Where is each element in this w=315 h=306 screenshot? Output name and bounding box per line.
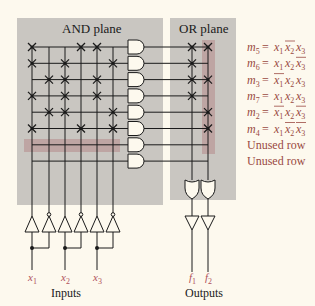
input-label-x2: x2 — [60, 271, 70, 286]
input-inverter — [42, 216, 56, 232]
and-gate — [128, 138, 144, 152]
output-buffer — [185, 216, 199, 230]
output-label-f1: f1 — [189, 271, 196, 286]
input-buffer — [58, 216, 72, 232]
minterm-equation: m3=x1x2x3 — [247, 73, 305, 89]
minterm-literal: x1 — [273, 122, 283, 138]
output-label-f2: f2 — [205, 271, 212, 286]
minterm-equation: m7=x1x2x3 — [247, 89, 305, 105]
junction-dot — [95, 246, 99, 250]
minterm-equation: m5=x1x2x3 — [247, 40, 305, 56]
input-branch — [97, 232, 113, 248]
minterm-literal: x2 — [284, 56, 294, 72]
minterm-literal: x3 — [295, 122, 305, 138]
minterm-name: m5 — [247, 40, 260, 56]
pla-diagram: AND plane OR plane x1x2x3f1f2m5=x1x2x3m6… — [0, 0, 315, 306]
minterm-literal: x3 — [295, 56, 305, 72]
unused-row-highlight — [24, 139, 120, 152]
minterm-literal: x2 — [284, 105, 294, 121]
minterm-literal: x1 — [273, 56, 283, 72]
minterm-name: m3 — [247, 73, 260, 89]
input-buffer — [25, 216, 39, 232]
minterm-literal: x1 — [273, 89, 283, 105]
svg-text:=: = — [262, 122, 269, 136]
minterm-literal: x1 — [273, 40, 283, 56]
and-gate — [128, 154, 144, 168]
minterm-literal: x2 — [284, 73, 294, 89]
output-buffer — [201, 216, 215, 230]
minterm-literal: x1 — [273, 73, 283, 89]
inverter-bubble — [111, 213, 115, 217]
svg-text:=: = — [262, 40, 269, 54]
input-branch — [65, 232, 81, 248]
minterm-literal: x2 — [284, 122, 294, 138]
input-inverter — [74, 216, 88, 232]
minterm-literal: x3 — [295, 40, 305, 56]
unused-row-label: Unused row — [247, 154, 306, 168]
unused-row-label: Unused row — [247, 138, 306, 152]
svg-text:=: = — [262, 56, 269, 70]
svg-text:=: = — [262, 73, 269, 87]
input-label-x3: x3 — [92, 271, 102, 286]
and-plane-title: AND plane — [62, 21, 122, 36]
input-label-x1: x1 — [27, 271, 37, 286]
inputs-caption: Inputs — [51, 286, 81, 300]
minterm-equation: m6=x1x2x3 — [247, 56, 306, 72]
svg-text:=: = — [262, 105, 269, 119]
and-gate — [128, 89, 144, 103]
minterm-literal: x3 — [295, 89, 305, 105]
and-gate — [128, 105, 144, 119]
input-branch — [32, 232, 49, 248]
and-gate — [128, 122, 144, 136]
inverter-bubble — [79, 213, 83, 217]
minterm-equation: m2=x1x2x3 — [247, 105, 306, 121]
outputs-caption: Outputs — [185, 286, 223, 300]
minterm-name: m4 — [247, 122, 260, 138]
junction-dot — [63, 246, 67, 250]
and-gate — [128, 40, 144, 54]
inverter-bubble — [47, 213, 51, 217]
minterm-literal: x3 — [295, 105, 305, 121]
svg-text:=: = — [262, 89, 269, 103]
input-buffer — [90, 216, 104, 232]
and-gate — [128, 73, 144, 87]
minterm-literal: x1 — [273, 105, 283, 121]
minterm-literal: x2 — [284, 40, 294, 56]
junction-dot — [30, 246, 34, 250]
minterm-literal: x2 — [284, 89, 294, 105]
minterm-name: m2 — [247, 105, 260, 121]
input-inverter — [106, 216, 120, 232]
or-plane-title: OR plane — [179, 21, 229, 36]
minterm-name: m6 — [247, 56, 260, 72]
and-gate — [128, 56, 144, 70]
minterm-name: m7 — [247, 89, 260, 105]
minterm-literal: x3 — [295, 73, 305, 89]
minterm-equation: m4=x1x2x3 — [247, 122, 306, 138]
